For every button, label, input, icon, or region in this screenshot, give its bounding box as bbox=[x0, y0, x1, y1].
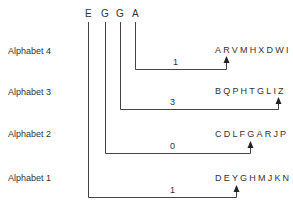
arrow-icon bbox=[224, 56, 230, 63]
row-number: 0 bbox=[170, 141, 175, 151]
row-label: Alphabet 3 bbox=[8, 87, 51, 97]
row-label: Alphabet 2 bbox=[8, 129, 51, 139]
top-letter-g1: G bbox=[101, 8, 109, 19]
connector-a bbox=[136, 22, 227, 70]
top-letter-g2: G bbox=[116, 8, 124, 19]
row-number: 3 bbox=[170, 97, 175, 107]
row-label: Alphabet 1 bbox=[8, 173, 51, 183]
top-letter-a: A bbox=[132, 8, 139, 19]
sequence: ARVMHXDWI bbox=[215, 45, 291, 55]
sequence: DEYGHMJKN bbox=[215, 173, 291, 183]
row-label: Alphabet 4 bbox=[8, 46, 51, 56]
arrow-icon bbox=[276, 97, 282, 104]
sequence: CDLFGARJP bbox=[215, 129, 288, 139]
row-number: 1 bbox=[170, 185, 175, 195]
top-letter-e: E bbox=[85, 8, 92, 19]
row-number: 1 bbox=[173, 57, 178, 67]
connector-g2 bbox=[121, 22, 279, 110]
arrow-icon bbox=[234, 185, 240, 192]
arrow-icon bbox=[248, 141, 254, 148]
sequence: BQPHTGLIZ bbox=[215, 86, 286, 96]
